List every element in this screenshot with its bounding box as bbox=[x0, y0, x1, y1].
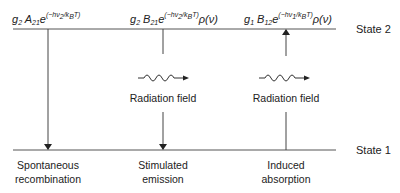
radiation-field-label-stimulated: Radiation field bbox=[123, 91, 203, 105]
transition-label-spontaneous: Spontaneous recombination bbox=[8, 158, 88, 186]
label-line-2: emission bbox=[123, 172, 203, 186]
rate-formula-stimulated: g2 B21e(−hν2/kBT)ρ(ν) bbox=[130, 11, 218, 26]
state-1-label: State 1 bbox=[356, 144, 391, 156]
label-line-2: absorption bbox=[246, 172, 326, 186]
state-2-label: State 2 bbox=[356, 23, 391, 35]
transition-label-induced: Induced absorption bbox=[246, 158, 326, 186]
wave-icon-stimulated bbox=[138, 75, 189, 81]
wave-icon-induced bbox=[259, 75, 310, 81]
radiation-field-label-induced: Radiation field bbox=[246, 91, 326, 105]
label-line-1: Induced bbox=[246, 158, 326, 172]
label-line-1: Stimulated bbox=[123, 158, 203, 172]
label-line-1: Spontaneous bbox=[8, 158, 88, 172]
rate-formula-induced: g1 B12e(−hν1/kBT)ρ(ν) bbox=[244, 11, 332, 26]
rate-formula-spontaneous: g2 A21e(−hν2/kBT) bbox=[12, 11, 80, 26]
transition-label-stimulated: Stimulated emission bbox=[123, 158, 203, 186]
label-line-2: recombination bbox=[8, 172, 88, 186]
